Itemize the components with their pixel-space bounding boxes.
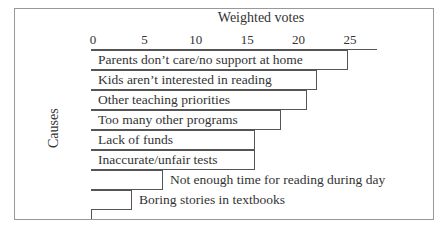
x-tick-label: 0 — [90, 32, 97, 48]
bar-label: Lack of funds — [98, 130, 173, 150]
x-tick-label: 10 — [189, 32, 202, 48]
x-tick-label: 25 — [344, 32, 357, 48]
bar-label: Boring stories in textbooks — [139, 190, 285, 210]
bar-label: Other teaching priorities — [98, 90, 230, 110]
bar-label: Too many other programs — [98, 110, 238, 130]
bar-label: Inaccurate/unfair tests — [98, 150, 218, 170]
bar-label: Kids aren’t interested in reading — [98, 70, 272, 90]
bar-label: Not enough time for reading during day — [170, 170, 385, 190]
bar — [91, 170, 163, 190]
x-tick-label: 15 — [241, 32, 254, 48]
bar — [91, 190, 132, 210]
x-tick-label: 5 — [141, 32, 148, 48]
y-axis-title: Causes — [46, 108, 62, 148]
x-axis-title: Weighted votes — [40, 10, 442, 26]
bar-label: Parents don’t care/no support at home — [98, 50, 303, 70]
x-tick-label: 20 — [292, 32, 305, 48]
